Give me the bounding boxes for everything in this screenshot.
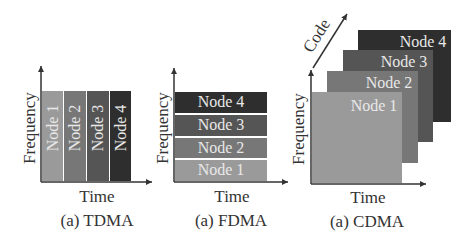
fdma-y-axis-label: Frequency <box>153 92 173 164</box>
fdma-node-2-label: Node 2 <box>198 139 245 157</box>
fdma-x-axis-label: Time <box>214 187 249 207</box>
fdma-node-1-label: Node 1 <box>198 161 245 179</box>
tdma-node-2-label: Node 2 <box>66 105 84 152</box>
fdma-node-3-label: Node 3 <box>198 116 245 134</box>
tdma-node-3-label: Node 3 <box>89 105 107 152</box>
cdma-node-3-label: Node 3 <box>381 53 428 71</box>
cdma-node-4-label: Node 4 <box>400 33 447 51</box>
tdma-y-axis-label: Frequency <box>20 92 40 164</box>
tdma-node-4-label: Node 4 <box>112 105 130 152</box>
tdma-node-1-label: Node 1 <box>44 105 62 152</box>
cdma-node-1-label: Node 1 <box>351 97 398 115</box>
cdma-node-2-label: Node 2 <box>366 74 413 92</box>
cdma-caption: (a) CDMA <box>330 212 404 232</box>
fdma-node-4-label: Node 4 <box>198 93 245 111</box>
cdma-x-axis-label: Time <box>350 188 385 208</box>
fdma-caption: (a) FDMA <box>195 211 267 231</box>
tdma-caption: (a) TDMA <box>61 211 134 231</box>
tdma-x-axis-label: Time <box>79 187 114 207</box>
cdma-y-axis-label: Frequency <box>289 93 309 165</box>
